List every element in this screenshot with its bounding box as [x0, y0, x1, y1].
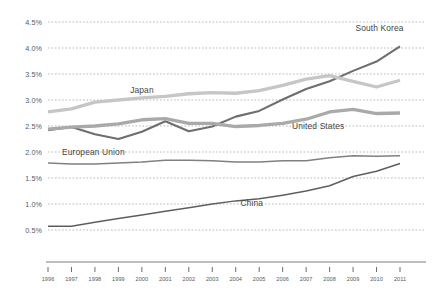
x-tick-label: 2008: [323, 276, 336, 282]
x-tick-label: 1996: [42, 276, 55, 282]
x-tick-label: 2010: [370, 276, 383, 282]
x-axis: [46, 262, 426, 272]
series-label-united-states: United States: [292, 121, 344, 131]
x-tick-label: 2003: [206, 276, 219, 282]
x-tick-label: 2006: [276, 276, 289, 282]
y-tick-label: 2.0%: [25, 148, 42, 157]
x-tick-label: 1997: [65, 276, 78, 282]
y-axis-labels: 4.5%4.0%3.5%3.0%2.5%2.0%1.5%1.0%0.5%: [25, 18, 42, 235]
y-tick-label: 3.0%: [25, 96, 42, 105]
series-label-european-union: European Union: [62, 147, 125, 157]
y-tick-label: 2.5%: [25, 122, 42, 131]
x-tick-label: 1998: [89, 276, 102, 282]
y-tick-label: 3.5%: [25, 70, 42, 79]
x-tick-label: 2002: [182, 276, 195, 282]
x-tick-label: 2001: [159, 276, 172, 282]
x-tick-label: 2005: [253, 276, 266, 282]
series-labels: South KoreaJapanUnited StatesEuropean Un…: [62, 23, 404, 208]
x-tick-label: 1999: [112, 276, 125, 282]
x-tick-label: 2000: [136, 276, 149, 282]
series-label-china: China: [240, 198, 263, 208]
x-axis-labels: 1996199719981999200020012002200320042005…: [42, 276, 406, 282]
y-tick-label: 1.5%: [25, 174, 42, 183]
series-line: [48, 109, 400, 129]
y-tick-label: 4.5%: [25, 18, 42, 27]
x-tick-label: 2007: [300, 276, 313, 282]
series-line: [48, 163, 400, 226]
chart-canvas: 4.5%4.0%3.5%3.0%2.5%2.0%1.5%1.0%0.5% 199…: [0, 0, 432, 294]
line-chart: 4.5%4.0%3.5%3.0%2.5%2.0%1.5%1.0%0.5% 199…: [0, 0, 432, 294]
x-tick-label: 2011: [394, 276, 406, 282]
y-tick-label: 1.0%: [25, 200, 42, 209]
series-label-south-korea: South Korea: [355, 23, 403, 33]
y-tick-label: 4.0%: [25, 44, 42, 53]
x-tick-label: 2004: [229, 276, 242, 282]
data-lines: [48, 46, 400, 226]
series-line: [48, 76, 400, 112]
series-label-japan: Japan: [130, 85, 154, 95]
x-tick-label: 2009: [347, 276, 360, 282]
y-tick-label: 0.5%: [25, 226, 42, 235]
